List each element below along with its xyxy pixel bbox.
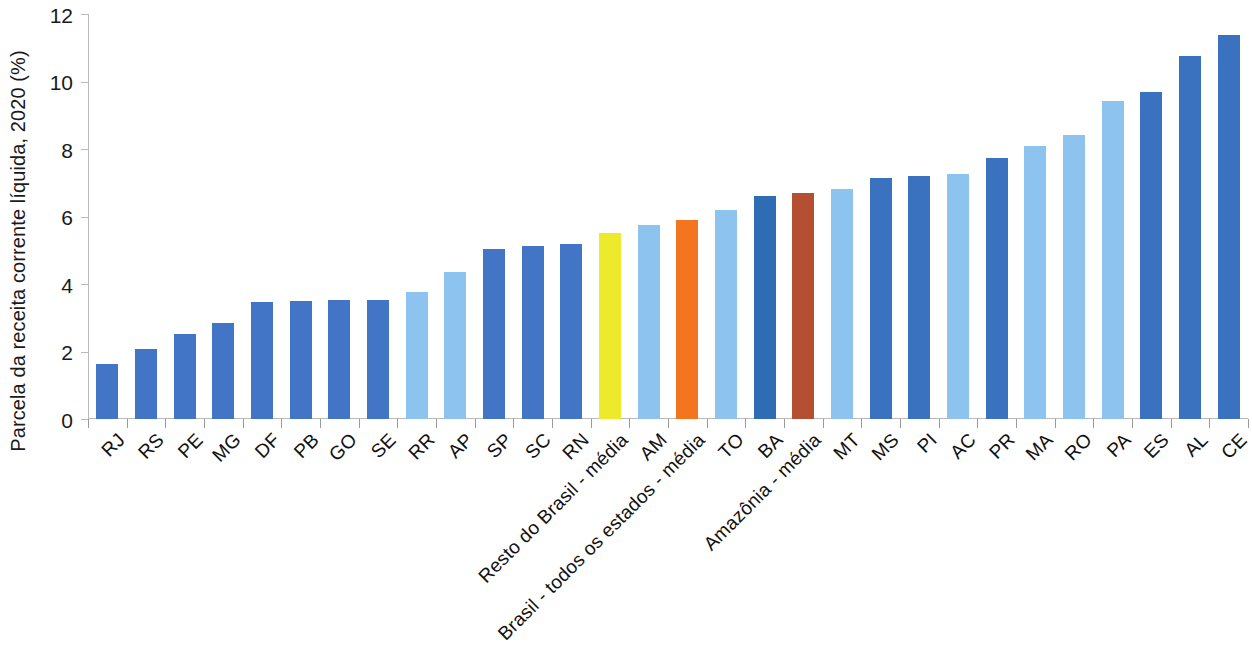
y-axis-tick: 2 (81, 352, 88, 353)
y-axis-tick-label: 8 (61, 139, 73, 160)
bar (251, 302, 273, 419)
y-axis-tick: 6 (81, 217, 88, 218)
plot-area: 024681012 (88, 14, 1248, 419)
bar (406, 292, 428, 419)
chart-page: Parcela da receita corrente líquida, 202… (0, 0, 1252, 654)
y-axis-tick: 10 (81, 82, 88, 83)
bar (676, 220, 698, 419)
x-axis-tick-label: GO (325, 429, 362, 466)
bar (1140, 92, 1162, 419)
x-axis-tick-label: CE (1217, 429, 1252, 464)
y-axis-tick-label: 2 (61, 342, 73, 363)
bar (947, 174, 969, 419)
y-axis-tick-label: 4 (61, 274, 73, 295)
bar (1218, 35, 1240, 419)
bar (599, 233, 621, 419)
bar (96, 364, 118, 419)
bar (212, 323, 234, 419)
x-axis-tick-label: AL (1180, 429, 1212, 461)
bar (174, 334, 196, 419)
bar (522, 246, 544, 419)
x-axis-tick-label: MG (208, 429, 245, 466)
y-axis-tick-label: 6 (61, 207, 73, 228)
x-axis-tick-label: MT (829, 429, 864, 464)
x-axis-labels: RJRSPEMGDFPBGOSERRAPSPSCRNResto do Brasi… (88, 419, 1252, 654)
x-axis-tick-label: TO (714, 429, 748, 463)
y-axis-tick-label: 12 (50, 4, 73, 25)
bar (483, 249, 505, 419)
y-axis-tick: 8 (81, 149, 88, 150)
bar (715, 210, 737, 419)
x-axis-tick-label: RR (404, 429, 439, 464)
bar (638, 225, 660, 419)
x-axis-tick-label: PA (1102, 429, 1135, 462)
bar (986, 158, 1008, 419)
bar (1102, 101, 1124, 419)
bar (367, 300, 389, 419)
x-axis-tick-label: AC (946, 429, 981, 464)
y-axis-tick: 4 (81, 284, 88, 285)
y-axis-label: Parcela da receita corrente líquida, 202… (0, 36, 36, 466)
bar (754, 196, 776, 419)
x-axis-tick-label: RO (1061, 429, 1097, 465)
x-axis-tick-label: SE (367, 429, 401, 463)
x-axis-tick-label: SC (521, 429, 556, 464)
bar (444, 272, 466, 419)
x-axis-tick-label: ES (1140, 429, 1174, 463)
x-axis-tick-label: RJ (98, 429, 130, 461)
bar (870, 178, 892, 419)
bar-series (88, 14, 1248, 419)
bar (560, 244, 582, 419)
x-axis-tick-label: DF (251, 429, 285, 463)
bar (290, 301, 312, 419)
y-axis-tick-label: 0 (61, 409, 73, 430)
bar (831, 189, 853, 420)
x-axis-tick-label: PI (913, 429, 942, 458)
x-axis-tick-label: AP (444, 429, 478, 463)
bar (328, 300, 350, 419)
x-axis-tick-label: MS (867, 429, 903, 465)
x-axis-tick-label: PB (289, 429, 323, 463)
bar (908, 176, 930, 419)
bar (792, 193, 814, 419)
bar (1024, 146, 1046, 419)
x-axis-tick-label: PE (173, 429, 207, 463)
bar (1063, 135, 1085, 419)
y-axis-tick: 12 (81, 14, 88, 15)
bar (1179, 56, 1201, 419)
x-axis-tick-label: SP (483, 429, 517, 463)
y-axis-tick: 0 (81, 419, 88, 420)
y-axis-tick-label: 10 (50, 72, 73, 93)
x-axis-tick-label: MA (1022, 429, 1058, 465)
x-axis-tick-label: RS (134, 429, 169, 464)
bar (135, 349, 157, 419)
x-axis-tick-label: PR (985, 429, 1020, 464)
